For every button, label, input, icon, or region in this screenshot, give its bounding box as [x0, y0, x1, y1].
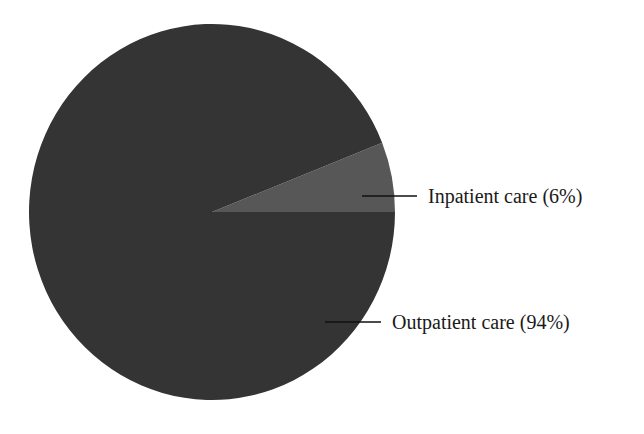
pie-slices	[29, 24, 395, 400]
outpatient-label: Outpatient care (94%)	[392, 311, 570, 334]
pie-chart: Inpatient care (6%) Outpatient care (94%…	[0, 0, 644, 434]
inpatient-label: Inpatient care (6%)	[428, 185, 582, 208]
